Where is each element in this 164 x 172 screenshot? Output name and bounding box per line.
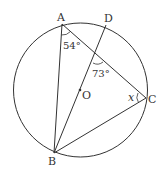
segment-bc (54, 98, 146, 153)
center-point-o (79, 89, 82, 92)
segment-ac (62, 24, 146, 98)
geometry-diagram: A D C B O 54° 73° x (0, 0, 164, 172)
label-d: D (104, 12, 113, 25)
angle-label-73: 73° (92, 68, 110, 79)
segment-ab (54, 24, 62, 153)
angle-arc-intersection (93, 62, 103, 64)
label-o: O (82, 89, 91, 102)
label-a: A (56, 11, 66, 24)
label-b: B (48, 155, 56, 168)
angle-label-x: x (128, 91, 135, 104)
angle-arc-a (61, 32, 70, 36)
angle-arc-c (137, 93, 139, 103)
label-c: C (148, 93, 156, 106)
angle-label-54: 54° (63, 40, 81, 51)
